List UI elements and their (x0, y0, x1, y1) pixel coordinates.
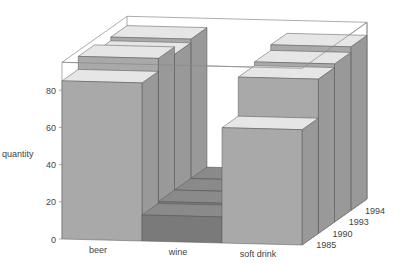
bar-side-face (318, 68, 334, 234)
x-category-label: soft drink (240, 249, 277, 259)
bar-front-face (142, 215, 222, 243)
y-tick-label: 0 (51, 235, 56, 245)
x-category-label: wine (168, 247, 188, 257)
depth-category-label: 1994 (365, 206, 385, 216)
bar-front-face (222, 128, 302, 245)
bar-front-face (62, 81, 142, 241)
bar-top-face (255, 50, 351, 64)
bar-top-face (271, 33, 367, 47)
depth-category-label: 1990 (332, 229, 352, 239)
chart-container: 020406080quantitybeerwinesoft drink19851… (0, 0, 401, 276)
bar-side-face (302, 118, 318, 245)
bar-side-face (351, 35, 367, 210)
y-axis-label: quantity (2, 149, 34, 159)
bar-top-face (222, 116, 318, 129)
bar-top-face (62, 69, 158, 83)
bar-side-face (335, 52, 351, 222)
bar-top-face (111, 26, 207, 39)
box-edge (127, 16, 367, 22)
bars-group (62, 26, 367, 245)
bar-chart-3d: 020406080quantitybeerwinesoft drink19851… (0, 0, 401, 276)
bar-top-face (78, 45, 174, 59)
x-category-label: beer (89, 245, 107, 255)
y-tick-label: 60 (46, 123, 56, 133)
y-axis: 020406080quantity (2, 86, 62, 245)
x-axis: beerwinesoft drink (89, 245, 277, 259)
y-tick-label: 80 (46, 86, 56, 96)
bar-soft-drink-1985 (222, 116, 318, 245)
depth-category-label: 1985 (316, 240, 336, 250)
depth-category-label: 1993 (349, 217, 369, 227)
y-tick-label: 20 (46, 197, 56, 207)
y-tick-label: 40 (46, 160, 56, 170)
